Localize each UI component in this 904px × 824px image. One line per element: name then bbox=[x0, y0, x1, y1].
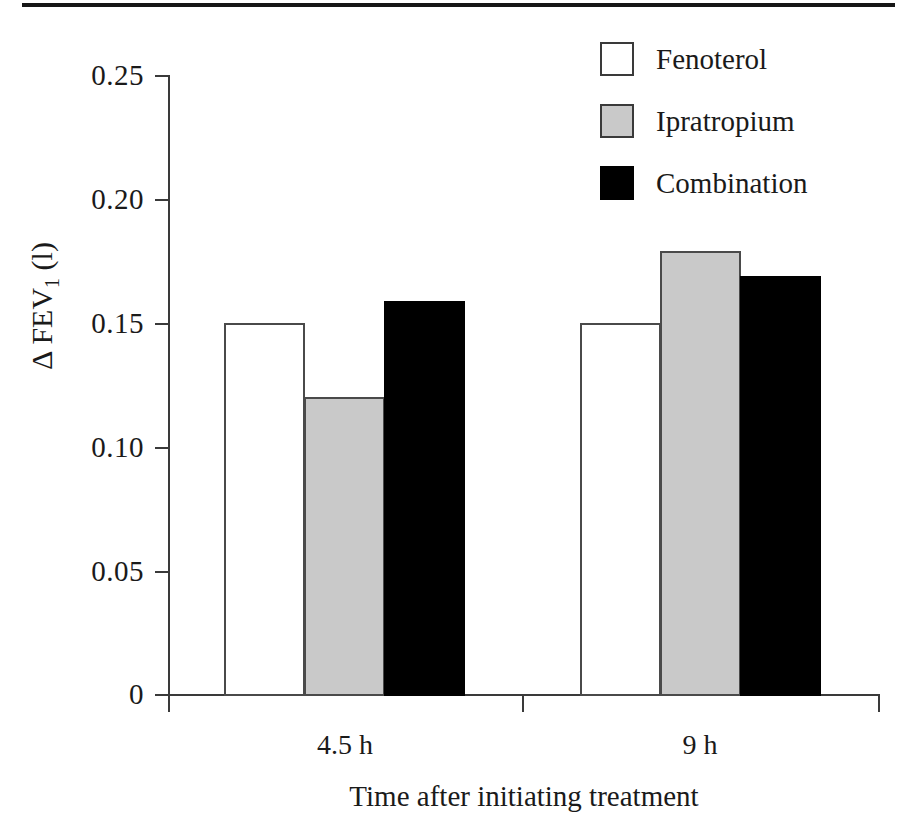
x-axis-tick-label-9h: 9 h bbox=[600, 730, 800, 760]
y-axis-tick-label-0.05: 0.05 bbox=[91, 557, 144, 586]
y-axis-tick-label-0.25: 0.25 bbox=[91, 61, 144, 90]
x-axis-tick-group-separator bbox=[522, 696, 524, 712]
y-axis-line bbox=[168, 75, 170, 696]
legend-swatch-ipratropium-icon bbox=[600, 104, 634, 138]
legend-label-fenoterol: Fenoterol bbox=[656, 44, 767, 74]
x-axis-tick-label-4.5h: 4.5 h bbox=[245, 730, 445, 760]
y-axis-tick-label-0.20: 0.20 bbox=[91, 185, 144, 214]
legend-item-fenoterol: Fenoterol bbox=[600, 28, 807, 90]
legend-swatch-fenoterol-icon bbox=[600, 42, 634, 76]
bar-combination-9h bbox=[740, 276, 821, 696]
y-axis-tick-0.10 bbox=[155, 447, 169, 449]
y-axis-tick-0.25 bbox=[155, 75, 169, 77]
y-axis-tick-label-0.15: 0.15 bbox=[91, 309, 144, 338]
legend-item-ipratropium: Ipratropium bbox=[600, 90, 807, 152]
y-axis-tick-label-0.10: 0.10 bbox=[91, 433, 144, 462]
y-axis-tick-label-0: 0 bbox=[129, 680, 144, 709]
x-axis-title: Time after initiating treatment bbox=[168, 780, 880, 812]
y-axis-tick-0.05 bbox=[155, 571, 169, 573]
bar-combination-4.5h bbox=[384, 301, 465, 696]
figure: 0.25 0.20 0.15 0.10 0.05 0 4.5 h 9 h Δ F… bbox=[0, 0, 904, 824]
y-axis-title-subscript: 1 bbox=[41, 278, 63, 288]
y-axis-tick-0 bbox=[155, 694, 169, 696]
delta-symbol: Δ bbox=[25, 351, 58, 370]
x-axis-tick-right bbox=[878, 696, 880, 712]
x-axis-tick-left bbox=[168, 696, 170, 712]
bar-ipratropium-4.5h bbox=[304, 397, 385, 696]
legend-label-ipratropium: Ipratropium bbox=[656, 106, 795, 136]
bar-fenoterol-4.5h bbox=[224, 323, 305, 696]
y-axis-title-base: FEV bbox=[25, 288, 58, 345]
bar-ipratropium-9h bbox=[660, 251, 741, 696]
chart-legend: Fenoterol Ipratropium Combination bbox=[600, 28, 807, 214]
legend-item-combination: Combination bbox=[600, 152, 807, 214]
y-axis-tick-0.20 bbox=[155, 199, 169, 201]
y-axis-title-unit: (l) bbox=[25, 242, 58, 270]
legend-label-combination: Combination bbox=[656, 168, 807, 198]
y-axis-tick-0.15 bbox=[155, 323, 169, 325]
legend-swatch-combination-icon bbox=[600, 166, 634, 200]
y-axis-title: Δ FEV1 (l) bbox=[26, 146, 58, 466]
bar-fenoterol-9h bbox=[580, 323, 661, 696]
